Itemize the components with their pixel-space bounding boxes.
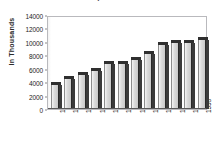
bar [158,42,168,109]
bar-side-3d [111,64,115,109]
bar-side-3d [165,45,169,109]
bar-top-3d [171,40,181,43]
bar-face [51,85,58,109]
bar-face [184,43,191,109]
bar-top-3d [118,61,128,64]
bar-side-3d [58,85,62,109]
bar-side-3d [191,43,195,109]
bar [171,40,181,109]
bar [64,76,74,109]
bar-top-3d [198,37,208,40]
bar [91,68,101,109]
bar-face [158,45,165,109]
y-tick-label: 10000 [0,39,43,46]
y-tick-label: 0 [0,107,43,114]
chart-title: Population [0,0,217,1]
bar-top-3d [131,57,141,60]
bar-side-3d [125,64,129,109]
bar-top-3d [184,40,194,43]
y-tick-label: 14000 [0,13,43,20]
bar-top-3d [64,76,74,79]
plot-area [47,16,207,110]
bar [144,51,154,109]
bar [131,57,141,109]
bar-side-3d [151,54,155,109]
bar-side-3d [71,79,75,109]
bar-face [64,79,71,109]
bar-face [78,75,85,109]
y-tick-label: 12000 [0,26,43,33]
bar-face [131,60,138,109]
bar [104,61,114,109]
bar-top-3d [91,68,101,71]
bar-side-3d [85,75,89,109]
bar [51,82,61,109]
bar-side-3d [98,71,102,109]
bar-top-3d [158,42,168,45]
y-tick-label: 2000 [0,93,43,100]
bar-series [48,17,206,109]
y-tick-label: 8000 [0,53,43,60]
y-tick-label: 6000 [0,66,43,73]
bar [198,37,208,109]
axis-baseline [48,108,206,109]
bar-side-3d [178,43,182,109]
bar-face [171,43,178,109]
y-tick-label: 4000 [0,80,43,87]
bar-face [91,71,98,109]
bar-face [144,54,151,109]
bar-face [118,64,125,109]
bar-chart: Population In Thousands 0200040006000800… [0,0,217,146]
bar [78,72,88,109]
bar-top-3d [144,51,154,54]
bar [118,61,128,109]
bar-face [104,64,111,109]
bar-top-3d [78,72,88,75]
bar-top-3d [104,61,114,64]
bar-top-3d [51,82,61,85]
bar-side-3d [205,40,209,109]
bar [184,40,194,109]
bar-face [198,40,205,109]
bar-side-3d [138,60,142,109]
